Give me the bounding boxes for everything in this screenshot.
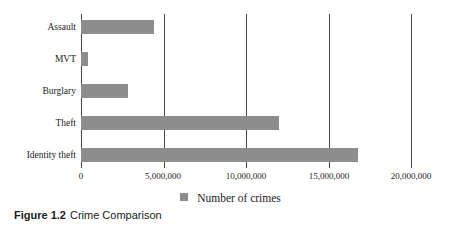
bar-assault [81, 20, 154, 34]
bar-chart: Assault MVT Burglary Theft Identity thef… [0, 0, 461, 185]
x-tick-15000000: 15,000,000 [309, 171, 350, 181]
y-axis-label-theft: Theft [0, 118, 76, 128]
chart-legend: Number of crimes [0, 188, 461, 206]
figure-crime-comparison: Assault MVT Burglary Theft Identity thef… [0, 0, 461, 230]
y-axis-label-assault: Assault [0, 22, 76, 32]
bar-burglary [81, 84, 128, 98]
bar-theft [81, 116, 279, 130]
gridline-15000000 [329, 14, 330, 168]
legend-label-number-of-crimes: Number of crimes [197, 192, 281, 204]
gridline-5000000 [164, 14, 165, 168]
figure-caption: Figure 1.2Crime Comparison [14, 209, 162, 222]
y-axis-label-burglary: Burglary [0, 86, 76, 96]
x-tick-10000000: 10,000,000 [226, 171, 267, 181]
figure-title: Crime Comparison [70, 209, 162, 221]
figure-number: Figure 1.2 [14, 209, 66, 221]
bar-mvt [81, 52, 88, 66]
plot-area [81, 14, 411, 168]
gridline-10000000 [246, 14, 247, 168]
gridline-20000000 [411, 14, 412, 168]
x-tick-0: 0 [79, 171, 84, 181]
y-axis-label-identity-theft: Identity theft [0, 150, 76, 160]
y-axis-label-mvt: MVT [0, 54, 76, 64]
legend-swatch-icon [180, 193, 188, 201]
bar-identity-theft [81, 148, 358, 162]
x-tick-20000000: 20,000,000 [391, 171, 432, 181]
x-tick-5000000: 5,000,000 [145, 171, 181, 181]
